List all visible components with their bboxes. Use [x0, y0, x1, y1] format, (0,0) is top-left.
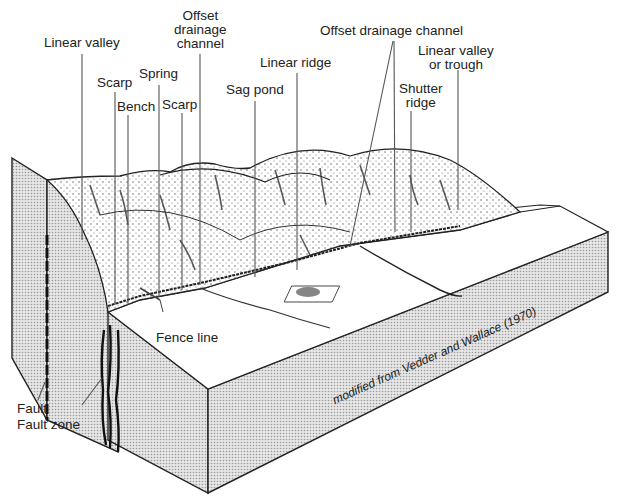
label-bench: Bench: [117, 100, 155, 114]
label-fence-line: Fence line: [156, 331, 218, 345]
label-linear-valley-trough: Linear valley or trough: [418, 44, 494, 72]
sag-pond: [296, 287, 320, 297]
block-diagram: [0, 0, 620, 503]
left-block-side: [12, 158, 47, 420]
label-line: ridge: [399, 96, 443, 110]
label-line: Shutter: [399, 82, 443, 96]
label-linear-valley: Linear valley: [44, 36, 120, 50]
label-line: or trough: [418, 58, 494, 72]
label-fault: Fault: [17, 402, 47, 416]
label-linear-ridge: Linear ridge: [260, 56, 331, 70]
label-scarp-right: Scarp: [162, 98, 197, 112]
label-fault-zone: Fault zone: [17, 418, 80, 432]
label-line: Offset: [174, 9, 227, 23]
label-scarp-left: Scarp: [97, 76, 132, 90]
label-offset-drainage-left: Offset drainage channel: [174, 9, 227, 51]
label-line: drainage: [174, 23, 227, 37]
label-sag-pond: Sag pond: [226, 83, 284, 97]
label-spring: Spring: [139, 67, 178, 81]
label-line: channel: [174, 37, 227, 51]
label-shutter-ridge: Shutter ridge: [399, 82, 443, 110]
label-offset-drainage-right: Offset drainage channel: [320, 24, 463, 38]
label-line: Linear valley: [418, 44, 494, 58]
